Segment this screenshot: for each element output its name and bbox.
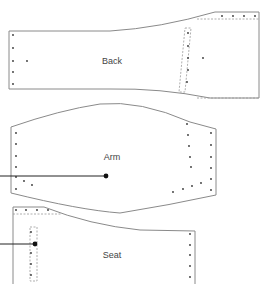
pattern-diagram [0,0,265,284]
arm-pin-marker [104,174,109,179]
arm-label: Arm [104,152,121,162]
back-piece [9,12,259,98]
back-label: Back [102,56,122,66]
seat-piece [0,207,195,284]
seat-label: Seat [103,250,122,260]
seat-pin-marker [33,242,38,247]
